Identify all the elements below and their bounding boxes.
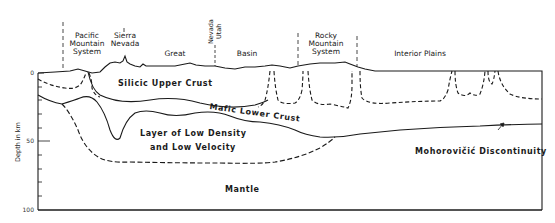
rocky-dashed: [308, 71, 352, 108]
basin-dashed-2: [274, 71, 303, 104]
region-great: Great: [160, 50, 190, 58]
cross-section-diagram: 0 50 100 Depth in km Pacific Mountain Sy…: [0, 0, 555, 223]
interior-dashed-4: [498, 71, 542, 99]
interior-dashed-2: [455, 71, 485, 96]
rocky-line-3: System: [304, 48, 348, 56]
pacific-crust-dashed: [38, 73, 86, 88]
y-axis-ticks: [38, 73, 50, 196]
pacific-line-3: System: [68, 48, 106, 56]
region-interior: Interior Plains: [385, 50, 455, 58]
interior-dashed-3: [488, 71, 495, 84]
surface-topography: [38, 56, 542, 73]
label-upper-crust: Silicic Upper Crust: [118, 80, 213, 88]
y-tick-0: 0: [16, 69, 34, 76]
y-tick-100: 100: [16, 206, 34, 213]
label-low-density-2: and Low Velocity: [150, 144, 236, 152]
interior-dashed: [360, 71, 452, 103]
region-sierra: Sierra Nevada: [108, 32, 142, 48]
region-rocky: Rocky Mountain System: [304, 32, 348, 56]
label-mantle: Mantle: [225, 186, 260, 194]
label-low-density-1: Layer of Low Density: [140, 130, 246, 138]
label-moho: Mohorovičić Discontinuity: [415, 148, 547, 156]
region-pacific: Pacific Mountain System: [68, 32, 106, 56]
region-nevada: Nevada: [208, 19, 215, 44]
y-axis-label: Depth in km: [15, 122, 22, 162]
region-basin: Basin: [232, 50, 262, 58]
upper-crust-base: [88, 72, 268, 107]
sierra-line-2: Nevada: [108, 40, 142, 48]
region-utah: Utah: [216, 24, 223, 39]
